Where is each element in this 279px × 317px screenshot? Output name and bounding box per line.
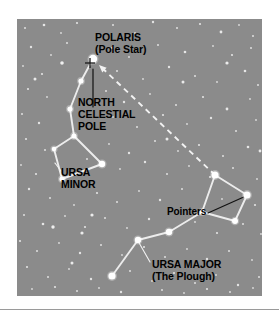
label-polaris: POLARIS (Pole Star) [95, 31, 146, 55]
star-chart-figure: POLARIS (Pole Star) NORTH CELESTIAL POLE… [0, 0, 279, 317]
label-north-celestial-pole: NORTH CELESTIAL POLE [78, 96, 135, 133]
label-ursa-major: URSA MAJOR (The Plough) [152, 258, 221, 282]
label-pointers: Pointers [167, 206, 206, 218]
bottom-divider [0, 309, 279, 310]
label-ursa-minor: URSA MINOR [61, 166, 96, 190]
sky-panel: POLARIS (Pole Star) NORTH CELESTIAL POLE… [17, 19, 262, 296]
label-layer: POLARIS (Pole Star) NORTH CELESTIAL POLE… [17, 19, 262, 296]
